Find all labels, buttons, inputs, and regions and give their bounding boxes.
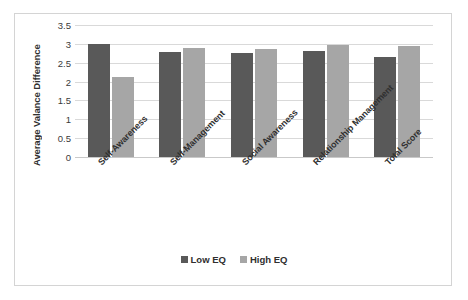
y-tick-label: 3 <box>45 38 71 49</box>
bar-group <box>218 25 290 157</box>
chart-plot-wrapper: Average Valance Difference 00.511.522.53… <box>15 14 453 287</box>
x-axis-category-labels: Self-AwarenessSelf-ManagementSocial Awar… <box>75 160 433 244</box>
bar-low-eq <box>88 44 110 157</box>
legend-label: High EQ <box>250 254 287 265</box>
bar-low-eq <box>303 51 325 157</box>
bar-group <box>290 25 362 157</box>
legend-swatch-icon <box>240 256 247 263</box>
y-tick-label: 0.5 <box>45 133 71 144</box>
bar-group <box>361 25 433 157</box>
y-tick-label: 0 <box>45 152 71 163</box>
bar-low-eq <box>231 53 253 157</box>
legend-swatch-icon <box>181 256 188 263</box>
bar-group <box>75 25 147 157</box>
y-tick-label: 2.5 <box>45 57 71 68</box>
y-tick-label: 1 <box>45 114 71 125</box>
bar-group <box>147 25 219 157</box>
chart-frame: Average Valance Difference 00.511.522.53… <box>14 13 452 286</box>
y-tick-label: 2 <box>45 76 71 87</box>
y-axis-tick-labels: 00.511.522.533.5 <box>45 25 71 157</box>
legend-label: Low EQ <box>191 254 226 265</box>
legend-item[interactable]: High EQ <box>240 254 287 265</box>
y-axis-title: Average Valance Difference <box>29 32 43 178</box>
legend-item[interactable]: Low EQ <box>181 254 226 265</box>
chart-legend: Low EQHigh EQ <box>15 254 453 265</box>
bar-low-eq <box>159 52 181 157</box>
y-tick-label: 1.5 <box>45 95 71 106</box>
y-tick-label: 3.5 <box>45 20 71 31</box>
